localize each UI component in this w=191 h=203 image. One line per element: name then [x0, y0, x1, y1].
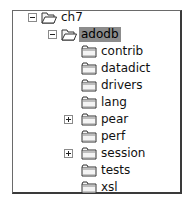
- folder-open-icon: [41, 11, 57, 24]
- folder-closed-icon: [81, 113, 97, 126]
- tree-node-label[interactable]: xsl: [99, 180, 120, 195]
- folder-closed-icon: [81, 164, 97, 177]
- tree-node-session[interactable]: session: [13, 145, 180, 162]
- tree-node-ch7[interactable]: ch7: [13, 9, 180, 26]
- collapse-minus-icon[interactable]: [28, 13, 37, 22]
- tree-node-label[interactable]: session: [99, 146, 147, 161]
- tree-node-xsl[interactable]: xsl: [13, 179, 180, 196]
- folder-closed-icon: [81, 45, 97, 58]
- tree-node-label[interactable]: contrib: [99, 44, 145, 59]
- tree-node-adodb[interactable]: adodb: [13, 26, 180, 43]
- folder-closed-icon: [81, 181, 97, 194]
- expand-plus-icon[interactable]: [64, 149, 73, 158]
- tree-node-label[interactable]: drivers: [99, 78, 145, 93]
- tree-node-tests[interactable]: tests: [13, 162, 180, 179]
- folder-closed-icon: [81, 79, 97, 92]
- tree-node-label[interactable]: pear: [99, 112, 130, 127]
- tree-node-label[interactable]: perf: [99, 129, 127, 144]
- tree-node-label[interactable]: ch7: [59, 10, 85, 25]
- tree-node-label[interactable]: datadict: [99, 61, 152, 76]
- folder-closed-icon: [81, 130, 97, 143]
- tree-node-label-selected[interactable]: adodb: [79, 27, 121, 42]
- tree-node-datadict[interactable]: datadict: [13, 60, 180, 77]
- tree-node-contrib[interactable]: contrib: [13, 43, 180, 60]
- folder-tree-panel[interactable]: ch7 adodb contrib datadict drivers lang …: [12, 10, 182, 194]
- folder-closed-icon: [81, 96, 97, 109]
- tree-node-perf[interactable]: perf: [13, 128, 180, 145]
- folder-closed-icon: [81, 62, 97, 75]
- tree-node-drivers[interactable]: drivers: [13, 77, 180, 94]
- folder-open-icon: [61, 28, 77, 41]
- tree-node-label[interactable]: lang: [99, 95, 129, 110]
- tree-node-pear[interactable]: pear: [13, 111, 180, 128]
- folder-closed-icon: [81, 147, 97, 160]
- expand-plus-icon[interactable]: [64, 115, 73, 124]
- collapse-minus-icon[interactable]: [48, 30, 57, 39]
- tree-node-lang[interactable]: lang: [13, 94, 180, 111]
- tree-node-label[interactable]: tests: [99, 163, 132, 178]
